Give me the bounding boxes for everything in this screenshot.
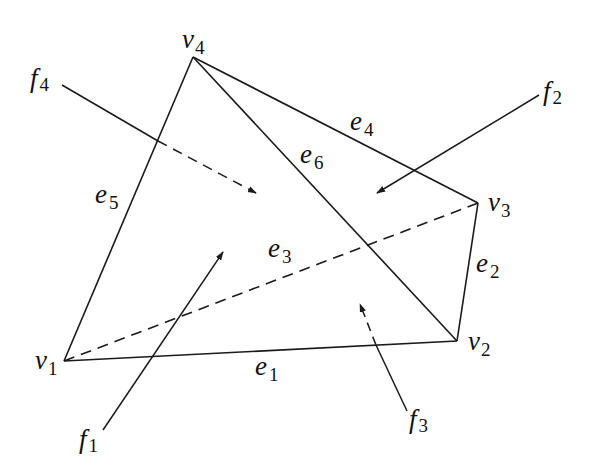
f4-arrow-solid: [62, 85, 158, 141]
f4-arrow-dashed: [158, 141, 256, 193]
edge-labels: e1 e2 e3 e4 e5 e6: [95, 106, 499, 385]
label-f1: f1: [79, 424, 98, 456]
edge-e4: [193, 57, 478, 203]
edge-e6: [193, 57, 457, 341]
label-e4: e4: [350, 106, 374, 140]
diagram-svg: v4 v3 v2 v1 e1 e2 e3 e4 e5 e6 f4 f2 f1 f…: [0, 0, 597, 476]
label-e1: e1: [255, 351, 278, 385]
face-arrows: [62, 85, 539, 430]
label-e3: e3: [268, 233, 291, 267]
f3-arrow-dashed: [360, 304, 376, 345]
label-e6: e6: [300, 139, 323, 173]
label-v2: v2: [468, 326, 490, 360]
label-f4: f4: [30, 63, 50, 95]
label-v4: v4: [182, 24, 205, 58]
label-f3: f3: [409, 404, 428, 436]
label-v3: v3: [488, 187, 510, 221]
label-e5: e5: [95, 179, 118, 213]
edges: [64, 57, 478, 361]
label-v1: v1: [35, 345, 57, 379]
f3-arrow-solid: [376, 345, 407, 411]
tetrahedron-diagram: v4 v3 v2 v1 e1 e2 e3 e4 e5 e6 f4 f2 f1 f…: [0, 0, 597, 476]
f1-arrow: [103, 252, 223, 430]
f2-arrow: [377, 95, 539, 193]
label-f2: f2: [543, 76, 562, 108]
label-e2: e2: [476, 248, 499, 282]
edge-e3: [64, 203, 478, 361]
edge-e5: [64, 57, 193, 361]
edge-e2: [457, 203, 478, 341]
